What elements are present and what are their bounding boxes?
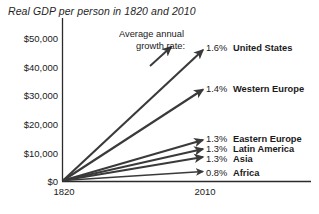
series-rate-united-states: 1.6%: [206, 43, 233, 53]
series-name-united-states: United States: [233, 43, 292, 53]
series-name-western-europe: Western Europe: [233, 84, 304, 94]
series-name-latin-america: Latin America: [233, 144, 294, 154]
series-rate-africa: 0.8%: [206, 168, 233, 178]
series-label-united-states: 1.6%United States: [206, 43, 292, 53]
series-name-africa: Africa: [233, 168, 259, 178]
annotation-line-1: Average annual: [119, 29, 184, 41]
series-rate-asia: 1.3%: [206, 154, 233, 164]
series-arrow-western-europe: [63, 90, 203, 181]
annotation-line-2: growth rate:: [136, 41, 185, 53]
x-tick-label-1820: 1820: [53, 186, 74, 197]
series-name-eastern-europe: Eastern Europe: [233, 134, 302, 144]
series-name-asia: Asia: [233, 154, 253, 164]
series-label-latin-america: 1.3%Latin America: [206, 144, 294, 154]
series-rate-latin-america: 1.3%: [206, 144, 233, 154]
series-label-western-europe: 1.4%Western Europe: [206, 84, 304, 94]
x-tick-label-2010: 2010: [194, 186, 215, 197]
series-label-africa: 0.8%Africa: [206, 168, 259, 178]
series-rate-eastern-europe: 1.3%: [206, 134, 233, 144]
chart-container: Real GDP per person in 1820 and 2010 $50…: [0, 0, 319, 214]
series-label-asia: 1.3%Asia: [206, 154, 253, 164]
series-rate-western-europe: 1.4%: [206, 84, 233, 94]
series-label-eastern-europe: 1.3%Eastern Europe: [206, 134, 302, 144]
